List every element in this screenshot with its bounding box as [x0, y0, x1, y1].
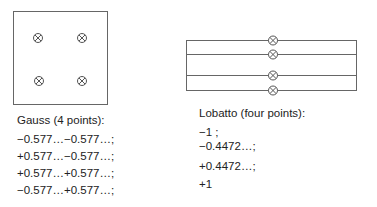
lobatto-lines: [186, 41, 357, 91]
gauss-markers: [34, 34, 87, 86]
lobatto-markers: [269, 36, 278, 95]
cross-circle-icon: [269, 71, 278, 80]
cross-circle-icon: [269, 36, 278, 45]
gauss-square: [14, 12, 108, 105]
lobatto-point-1: −1 ;: [199, 126, 219, 138]
lobatto-title: Lobatto (four points):: [199, 107, 305, 120]
cross-circle-icon: [34, 34, 43, 43]
gauss-point-2: +0.577…−0.577…;: [17, 150, 114, 162]
gauss-point-1: −0.577…−0.577…;: [17, 133, 114, 145]
cross-circle-icon: [78, 77, 87, 86]
cross-circle-icon: [78, 34, 87, 43]
gauss-point-4: −0.577…+0.577…;: [17, 184, 114, 196]
gauss-title: Gauss (4 points):: [17, 114, 105, 127]
lobatto-point-2: −0.4472…;: [199, 140, 256, 152]
cross-circle-icon: [269, 50, 278, 59]
lobatto-point-4: +1: [199, 178, 212, 190]
gauss-point-3: +0.577…+0.577…;: [17, 167, 114, 179]
cross-circle-icon: [269, 86, 278, 95]
cross-circle-icon: [35, 77, 44, 86]
lobatto-point-3: +0.4472…;: [199, 160, 256, 172]
